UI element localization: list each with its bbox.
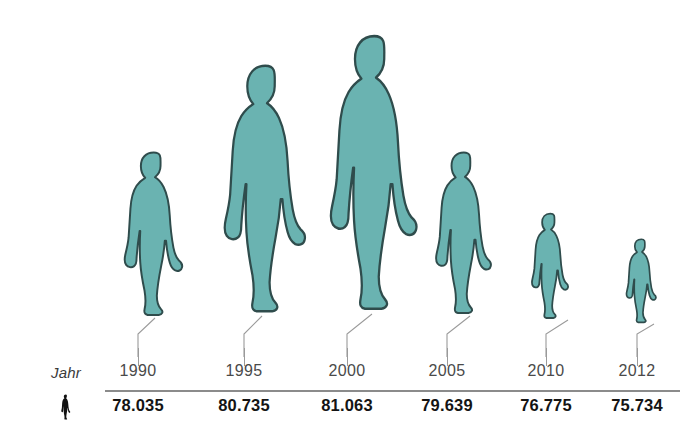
pictogram-chart: Jahr 1990 1995 2000 2005 2010 2012 78.03… xyxy=(0,0,696,448)
year-label-2010: 2010 xyxy=(498,362,594,380)
value-label-1995: 80.735 xyxy=(196,396,292,415)
figure-2005 xyxy=(424,150,506,316)
value-label-1990: 78.035 xyxy=(90,396,186,415)
figure-2010 xyxy=(524,212,578,320)
year-label-1995: 1995 xyxy=(196,362,292,380)
figure-2012 xyxy=(620,238,664,324)
value-label-2005: 79.639 xyxy=(399,396,495,415)
figure-1995 xyxy=(207,62,327,316)
value-label-2010: 76.775 xyxy=(498,396,594,415)
year-label-2005: 2005 xyxy=(399,362,495,380)
value-label-2012: 75.734 xyxy=(589,396,685,415)
figure-1990 xyxy=(112,150,198,318)
axis-divider-rule xyxy=(105,390,680,392)
figure-2000 xyxy=(312,32,440,314)
value-label-2000: 81.063 xyxy=(299,396,395,415)
year-label-1990: 1990 xyxy=(90,362,186,380)
year-label-2012: 2012 xyxy=(589,362,685,380)
axis-table: Jahr 1990 1995 2000 2005 2010 2012 78.03… xyxy=(0,358,696,436)
year-label-2000: 2000 xyxy=(299,362,395,380)
